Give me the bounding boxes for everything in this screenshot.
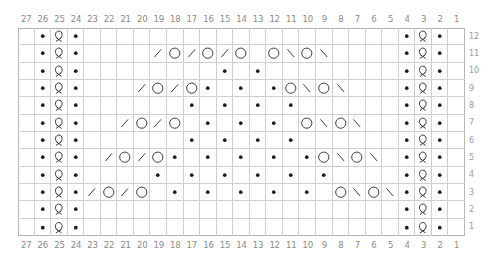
chart-cell-r2-c14 [233,201,250,218]
column-label-top: 9 [316,14,333,24]
chart-cell-r3-c21 [117,184,134,201]
chart-cell-r11-c25 [51,45,68,62]
chart-cell-r1-c27 [18,219,35,236]
chart-cell-r7-c10 [299,115,316,132]
column-label-top: 23 [84,14,101,24]
chart-cell-r10-c6 [366,63,383,80]
column-label-bottom: 26 [35,240,52,250]
chart-cell-r6-c11 [283,132,300,149]
chart-cell-r1-c8 [333,219,350,236]
chart-cell-r1-c9 [316,219,333,236]
chart-cell-r2-c8 [333,201,350,218]
row-label: 7 [469,118,474,127]
column-label-top: 10 [299,14,316,24]
chart-cell-r12-c24 [68,28,85,45]
chart-cell-r3-c24 [68,184,85,201]
chart-cell-r10-c4 [399,63,416,80]
chart-cell-r1-c16 [200,219,217,236]
chart-cell-r3-c18 [167,184,184,201]
chart-cell-r10-c1 [448,63,465,80]
chart-cell-r5-c17 [184,149,201,166]
chart-cell-r9-c24 [68,80,85,97]
chart-cell-r8-c11 [283,97,300,114]
chart-cell-r11-c27 [18,45,35,62]
chart-cell-r1-c2 [432,219,449,236]
row-label: 4 [469,170,474,179]
chart-cell-r10-c19 [150,63,167,80]
row-label: 8 [469,101,474,110]
column-label-bottom: 8 [333,240,350,250]
chart-cell-r2-c4 [399,201,416,218]
column-label-top: 15 [217,14,234,24]
chart-cell-r12-c5 [382,28,399,45]
column-label-top: 13 [250,14,267,24]
chart-cell-r5-c27 [18,149,35,166]
chart-cell-r8-c23 [84,97,101,114]
chart-cell-r7-c27 [18,115,35,132]
chart-cell-r4-c14 [233,167,250,184]
chart-cell-r4-c12 [266,167,283,184]
chart-cell-r10-c21 [117,63,134,80]
chart-cell-r1-c4 [399,219,416,236]
chart-cell-r2-c24 [68,201,85,218]
chart-cell-r12-c7 [349,28,366,45]
chart-cell-r9-c17 [184,80,201,97]
chart-cell-r8-c18 [167,97,184,114]
chart-cell-r2-c17 [184,201,201,218]
chart-cell-r5-c24 [68,149,85,166]
chart-cell-r4-c19 [150,167,167,184]
chart-cell-r11-c9 [316,45,333,62]
chart-cell-r6-c19 [150,132,167,149]
chart-cell-r1-c14 [233,219,250,236]
chart-cell-r7-c21 [117,115,134,132]
chart-cell-r8-c14 [233,97,250,114]
chart-cell-r9-c7 [349,80,366,97]
row-label: 12 [469,32,479,41]
chart-cell-r9-c27 [18,80,35,97]
chart-cell-r11-c24 [68,45,85,62]
chart-cell-r6-c8 [333,132,350,149]
chart-cell-r6-c22 [101,132,118,149]
chart-cell-r10-c11 [283,63,300,80]
chart-cell-r8-c27 [18,97,35,114]
chart-cell-r7-c23 [84,115,101,132]
column-label-bottom: 2 [432,240,449,250]
chart-cell-r7-c20 [134,115,151,132]
chart-cell-r9-c18 [167,80,184,97]
column-label-bottom: 23 [84,240,101,250]
chart-cell-r1-c12 [266,219,283,236]
chart-cell-r4-c26 [35,167,52,184]
chart-cell-r12-c3 [415,28,432,45]
chart-cell-r11-c13 [250,45,267,62]
column-label-top: 3 [415,14,432,24]
chart-cell-r3-c8 [333,184,350,201]
chart-cell-r8-c10 [299,97,316,114]
chart-cell-r4-c3 [415,167,432,184]
chart-cell-r7-c26 [35,115,52,132]
chart-cell-r3-c1 [448,184,465,201]
chart-cell-r6-c26 [35,132,52,149]
chart-cell-r8-c2 [432,97,449,114]
chart-cell-r11-c20 [134,45,151,62]
chart-cell-r6-c15 [217,132,234,149]
chart-cell-r1-c17 [184,219,201,236]
chart-cell-r3-c14 [233,184,250,201]
chart-cell-r4-c18 [167,167,184,184]
chart-cell-r9-c19 [150,80,167,97]
column-label-top: 19 [150,14,167,24]
chart-cell-r1-c1 [448,219,465,236]
chart-cell-r10-c9 [316,63,333,80]
column-label-bottom: 13 [250,240,267,250]
chart-cell-r7-c15 [217,115,234,132]
chart-cell-r6-c13 [250,132,267,149]
chart-cell-r11-c1 [448,45,465,62]
chart-cell-r8-c25 [51,97,68,114]
chart-cell-r2-c1 [448,201,465,218]
chart-cell-r10-c26 [35,63,52,80]
chart-cell-r10-c25 [51,63,68,80]
chart-cell-r4-c17 [184,167,201,184]
chart-cell-r6-c2 [432,132,449,149]
chart-cell-r12-c9 [316,28,333,45]
column-label-top: 22 [101,14,118,24]
chart-cell-r12-c2 [432,28,449,45]
